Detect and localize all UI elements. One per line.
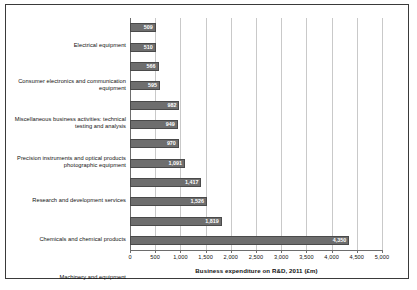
- x-tick-mark: [357, 250, 358, 253]
- x-tick-label: 5,000: [362, 254, 402, 260]
- bar-value-label: 1,526: [190, 198, 204, 204]
- y-axis-line: [130, 18, 131, 250]
- category-label: Precision instruments and optical produc…: [14, 155, 126, 169]
- category-label: Machinery and equipment: [14, 274, 126, 281]
- gridline: [256, 18, 257, 250]
- bar-row: 4,350Pharmaceuticals: [130, 236, 382, 245]
- bar-row: 1,417Aerospace: [130, 178, 382, 187]
- gridline: [382, 18, 383, 250]
- x-tick-mark: [306, 250, 307, 253]
- gridline: [206, 18, 207, 250]
- bar-value-label: 1,417: [185, 179, 199, 185]
- gridline: [155, 18, 156, 250]
- category-label: Electrical equipment: [14, 42, 126, 49]
- gridline: [332, 18, 333, 250]
- bar-row: 949Chemicals and chemical products: [130, 120, 382, 129]
- bar[interactable]: [130, 236, 349, 245]
- bar-value-label: 1,091: [168, 160, 182, 166]
- bar-value-label: 949: [166, 121, 175, 127]
- bar-value-label: 595: [148, 82, 157, 88]
- category-label: Miscellaneous business activities: techn…: [14, 116, 126, 130]
- x-tick-mark: [231, 250, 232, 253]
- x-tick-mark: [180, 250, 181, 253]
- gridline: [231, 18, 232, 250]
- bar-value-label: 970: [167, 140, 176, 146]
- category-label: Consumer electronics and communication e…: [14, 78, 126, 92]
- bar-row: 510Consumer electronics and communicatio…: [130, 43, 382, 52]
- x-tick-mark: [130, 250, 131, 253]
- bar-chart: 05001,0001,5002,0002,5003,0003,5004,0004…: [6, 5, 410, 280]
- chart-figure-frame: 05001,0001,5002,0002,5003,0003,5004,0004…: [5, 4, 409, 279]
- bar-value-label: 510: [144, 44, 153, 50]
- bar-row: 982Research and development services: [130, 101, 382, 110]
- bar-row: 595Precision instruments and optical pro…: [130, 81, 382, 90]
- gridline: [306, 18, 307, 250]
- bar-value-label: 1,819: [205, 218, 219, 224]
- bar-row: 1,819Computer programming and informatio…: [130, 217, 382, 226]
- bar-value-label: 509: [144, 24, 153, 30]
- bar-row: 1,091Telecommunications: [130, 159, 382, 168]
- x-tick-mark: [281, 250, 282, 253]
- bar-row: 566Miscellaneous business activities: te…: [130, 62, 382, 71]
- bar-row: 1,526Motor vehicles and parts: [130, 197, 382, 206]
- gridline: [180, 18, 181, 250]
- gridline: [281, 18, 282, 250]
- bar-row: 970Machinery and equipment: [130, 139, 382, 148]
- category-label: Research and development services: [14, 197, 126, 204]
- x-tick-mark: [206, 250, 207, 253]
- bar-value-label: 566: [147, 63, 156, 69]
- x-tick-mark: [155, 250, 156, 253]
- category-label: Chemicals and chemical products: [14, 236, 126, 243]
- x-tick-mark: [256, 250, 257, 253]
- bar-value-label: 982: [167, 102, 176, 108]
- bar-value-label: 4,350: [333, 237, 347, 243]
- bar-row: 509Electrical equipment: [130, 23, 382, 32]
- x-tick-mark: [332, 250, 333, 253]
- x-tick-mark: [382, 250, 383, 253]
- x-axis-title: Business expenditure on R&D, 2011 (£m): [130, 267, 383, 274]
- gridline: [357, 18, 358, 250]
